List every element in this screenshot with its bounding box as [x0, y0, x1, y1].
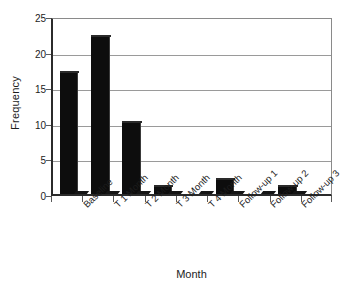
bar-chart-figure: Frequency 0510152025 BaselineT 1 MonthT … [0, 0, 349, 297]
x-axis-tick-label: T 3 Month [174, 202, 182, 210]
x-axis-tick-label: T 1 Month [112, 202, 120, 210]
bar-top-highlight [91, 35, 110, 37]
x-axis-tick-label: Follow-up 1 [237, 202, 245, 210]
baseline-artifact [136, 191, 151, 194]
bar-slot [115, 19, 146, 194]
bars-group [53, 19, 331, 194]
x-axis-tick-label: Baseline [81, 202, 89, 210]
bar[interactable] [91, 37, 108, 194]
x-axis-tick-label: T 4 Month [206, 202, 214, 210]
bar-slot [147, 19, 178, 194]
x-axis-tick-label: Follow-up 3 [299, 202, 307, 210]
y-axis-tick-label: 10 [35, 119, 46, 130]
baseline-artifact [74, 191, 89, 194]
bar-slot [240, 19, 271, 194]
y-axis-title-text: Frequency [9, 76, 21, 130]
y-axis-tick-label: 15 [35, 84, 46, 95]
x-axis-tick-label-group: BaselineT 1 MonthT 2 MonthT 3 MonthT 4 M… [51, 202, 332, 260]
bar-slot [209, 19, 240, 194]
bar-top-highlight [60, 71, 79, 73]
bar-slot [53, 19, 84, 194]
y-axis-tick-label-group: 0510152025 [24, 18, 46, 196]
baseline-artifact [105, 191, 120, 194]
bar[interactable] [60, 73, 77, 194]
bar-top-highlight [122, 121, 141, 123]
plot-area [51, 18, 332, 196]
x-axis-tick-label: T 2 Month [143, 202, 151, 210]
x-axis-title: Month [51, 268, 332, 280]
bar-slot [272, 19, 303, 194]
y-axis-title: Frequency [4, 0, 26, 205]
y-axis-tick-label: 25 [35, 13, 46, 24]
baseline-artifact [292, 191, 307, 194]
y-axis-tick-label: 20 [35, 48, 46, 59]
baseline-artifact [261, 191, 276, 194]
bar-slot [84, 19, 115, 194]
x-axis-tick-label: Follow-up 2 [268, 202, 276, 210]
bar-slot [178, 19, 209, 194]
baseline-artifact [199, 191, 214, 194]
